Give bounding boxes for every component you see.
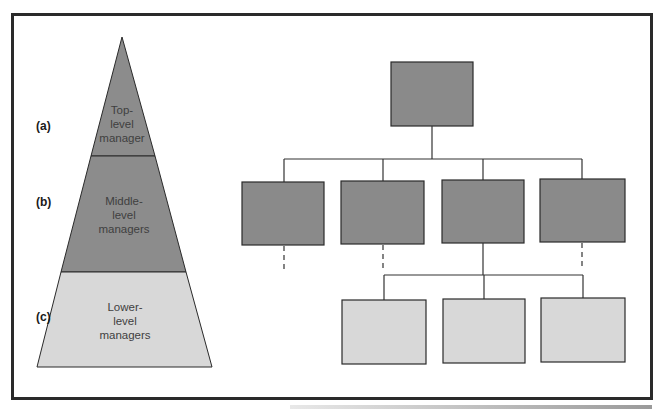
label-line: Lower- — [80, 300, 170, 314]
label-line: level — [79, 208, 169, 222]
pyramid-label-lower: Lower- level managers — [80, 300, 170, 342]
level-marker-b: (b) — [36, 195, 51, 209]
level-marker-c: (c) — [36, 310, 51, 324]
label-line: Top- — [77, 103, 167, 117]
label-line: level — [77, 117, 167, 131]
label-line: managers — [80, 328, 170, 342]
org-chart — [242, 62, 625, 364]
level-marker-a: (a) — [36, 119, 51, 133]
org-box-middle-1 — [242, 182, 324, 245]
label-line: Middle- — [79, 194, 169, 208]
org-box-lower-1 — [342, 300, 426, 364]
label-line: manager — [77, 131, 167, 145]
pyramid-label-top: Top- level manager — [77, 103, 167, 145]
org-box-middle-2 — [341, 181, 424, 244]
org-box-middle-4 — [540, 179, 625, 242]
org-box-top — [391, 62, 473, 126]
org-box-middle-3 — [442, 180, 524, 243]
label-line: managers — [79, 222, 169, 236]
label-line: level — [80, 314, 170, 328]
pyramid-label-middle: Middle- level managers — [79, 194, 169, 236]
org-box-lower-2 — [443, 299, 525, 363]
org-box-lower-3 — [541, 298, 625, 362]
